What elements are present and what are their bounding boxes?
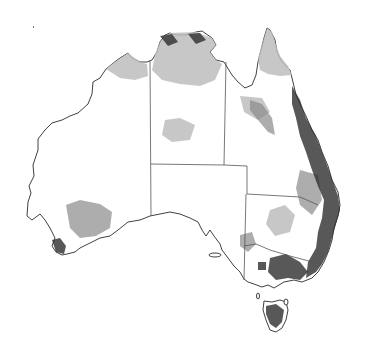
australia-map [0,0,368,352]
kangaroo-island [209,253,221,257]
offshore-island-mark [33,26,34,28]
bass-strait-island [257,293,260,299]
flinders-island [284,299,288,305]
